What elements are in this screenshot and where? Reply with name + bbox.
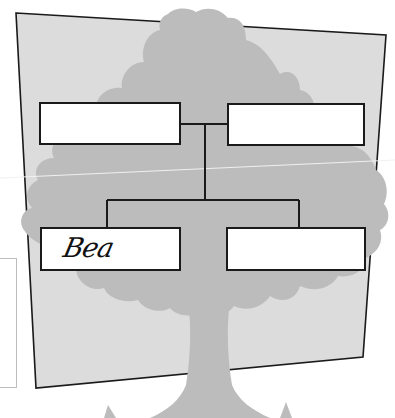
name-box-top-right[interactable] <box>227 103 365 146</box>
tree-panel-illustration <box>0 0 395 418</box>
name-box-bottom-left[interactable]: Bea <box>40 227 181 271</box>
handwritten-name: Bea <box>61 232 117 263</box>
name-box-bottom-right[interactable] <box>226 227 366 271</box>
family-tree-worksheet: Bea <box>0 0 395 418</box>
name-box-top-left[interactable] <box>39 102 181 145</box>
